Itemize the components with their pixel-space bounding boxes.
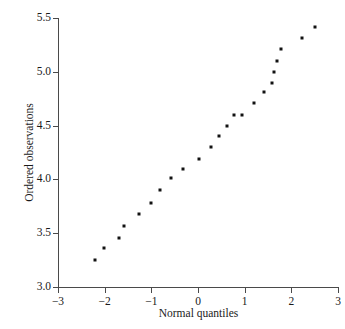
data-point xyxy=(225,124,228,127)
data-point xyxy=(137,212,140,215)
data-point xyxy=(270,81,273,84)
x-tick-mark xyxy=(151,288,152,293)
x-tick-label: −3 xyxy=(52,296,64,308)
data-point xyxy=(102,247,105,250)
x-tick-label: 1 xyxy=(242,296,248,308)
data-point xyxy=(313,25,316,28)
data-point xyxy=(241,113,244,116)
data-point xyxy=(182,167,185,170)
x-tick-label: −1 xyxy=(145,296,157,308)
x-tick-mark xyxy=(105,288,106,293)
data-point xyxy=(276,60,279,63)
data-point xyxy=(300,37,303,40)
data-point xyxy=(117,236,120,239)
data-point xyxy=(218,135,221,138)
data-point xyxy=(150,202,153,205)
data-point xyxy=(273,70,276,73)
qq-plot-figure: 3.03.54.04.55.05.5 −3−2−10123 Normal qua… xyxy=(0,0,345,329)
data-point xyxy=(280,48,283,51)
data-point xyxy=(210,146,213,149)
data-point xyxy=(197,157,200,160)
x-tick-label: 0 xyxy=(195,296,201,308)
x-tick-mark xyxy=(338,288,339,293)
y-axis-title: Ordered observations xyxy=(24,18,42,287)
x-tick-mark xyxy=(245,288,246,293)
data-point xyxy=(233,113,236,116)
x-tick-label: −2 xyxy=(99,296,111,308)
data-point xyxy=(262,91,265,94)
data-point xyxy=(123,224,126,227)
x-tick-mark xyxy=(198,288,199,293)
x-tick-label: 3 xyxy=(335,296,341,308)
x-axis-title: Normal quantiles xyxy=(58,308,339,320)
x-tick-mark xyxy=(58,288,59,293)
plot-data-area xyxy=(58,18,338,287)
x-tick-label: 2 xyxy=(288,296,294,308)
data-point xyxy=(94,259,97,262)
x-tick-mark xyxy=(291,288,292,293)
data-point xyxy=(170,177,173,180)
data-point xyxy=(158,189,161,192)
data-point xyxy=(253,102,256,105)
